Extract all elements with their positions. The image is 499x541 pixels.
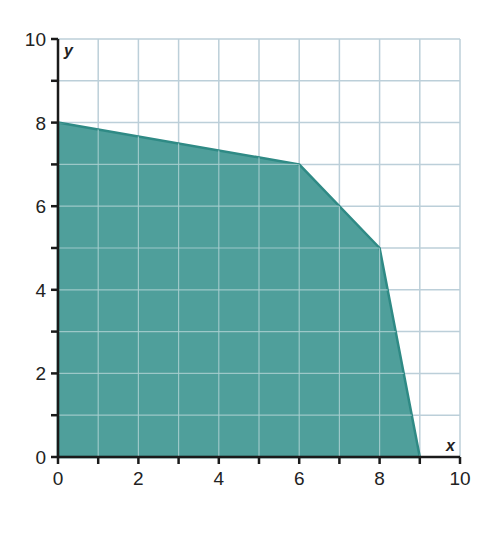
x-axis-tick-labels: 0246810 <box>53 468 471 489</box>
y-tick-label: 8 <box>35 113 46 134</box>
x-tick-label: 4 <box>214 468 225 489</box>
y-axis-label: y <box>63 42 74 59</box>
x-tick-label: 6 <box>294 468 305 489</box>
y-tick-label: 6 <box>35 196 46 217</box>
chart: 0246810 0246810 x y <box>0 0 499 541</box>
x-tick-label: 0 <box>53 468 64 489</box>
y-tick-label: 4 <box>35 280 46 301</box>
x-tick-label: 2 <box>133 468 144 489</box>
x-tick-label: 10 <box>449 468 470 489</box>
y-tick-label: 2 <box>35 363 46 384</box>
y-axis-tick-labels: 0246810 <box>25 29 47 468</box>
y-tick-label: 10 <box>25 29 46 50</box>
y-tick-label: 0 <box>35 447 46 468</box>
x-tick-label: 8 <box>374 468 385 489</box>
x-axis-label: x <box>445 437 456 454</box>
